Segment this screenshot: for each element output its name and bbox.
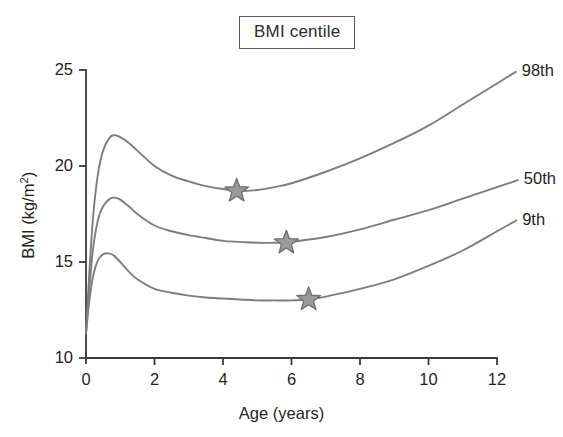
star-marker-9th [297, 287, 321, 310]
series-label-50th: 50th [524, 169, 556, 188]
series-leader-9th [497, 221, 516, 232]
y-axis-title-prefix: BMI (kg/m [19, 184, 37, 259]
y-tick-label-25: 25 [39, 60, 73, 79]
star-marker-50th [274, 230, 298, 253]
y-axis-title: BMI (kg/m2) [18, 125, 39, 305]
star-markers [225, 178, 321, 309]
y-tick-label-20: 20 [39, 156, 73, 175]
series-label-9th: 9th [522, 210, 545, 229]
x-axis-title: Age (years) [0, 404, 563, 423]
series-leader-50th [497, 180, 518, 187]
y-axis-title-suffix: ) [19, 172, 37, 178]
x-tick-label-12: 12 [480, 370, 514, 389]
bmi-centile-chart: BMI centile Age (years) BMI (kg/m2) 1015… [0, 0, 563, 437]
x-tick-label-8: 8 [343, 370, 377, 389]
series-label-98th: 98th [522, 61, 554, 80]
x-tick-label-10: 10 [412, 370, 446, 389]
centile-curve-50th [86, 187, 497, 333]
x-tick-label-0: 0 [69, 370, 103, 389]
y-axis-title-exponent: 2 [18, 177, 30, 183]
x-tick-label-6: 6 [275, 370, 309, 389]
chart-title-text: BMI centile [254, 22, 340, 41]
x-tick-label-4: 4 [206, 370, 240, 389]
x-tick-label-2: 2 [138, 370, 172, 389]
axis-lines [86, 70, 497, 358]
centile-curves [86, 72, 518, 334]
y-tick-label-15: 15 [39, 252, 73, 271]
series-leader-98th [497, 72, 516, 84]
star-marker-98th [225, 178, 249, 201]
chart-title-box: BMI centile [239, 16, 355, 49]
y-tick-label-10: 10 [39, 348, 73, 367]
